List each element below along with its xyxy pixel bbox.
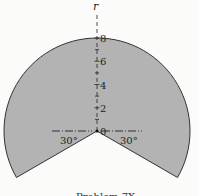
tick-label-8: 8 [100,33,106,44]
right-angle-label: 30° [120,135,138,146]
figure-caption: Problem 7X [76,191,136,196]
tick-label-0: 0 [100,126,106,137]
polar-region-diagram: 02468 r 30° 30° Problem 7X [0,0,198,196]
origin-point [95,129,98,132]
r-axis-label: r [93,0,99,13]
tick-label-2: 2 [100,103,106,114]
left-angle-label: 30° [60,135,78,146]
tick-label-6: 6 [100,56,106,67]
tick-label-4: 4 [100,80,106,91]
